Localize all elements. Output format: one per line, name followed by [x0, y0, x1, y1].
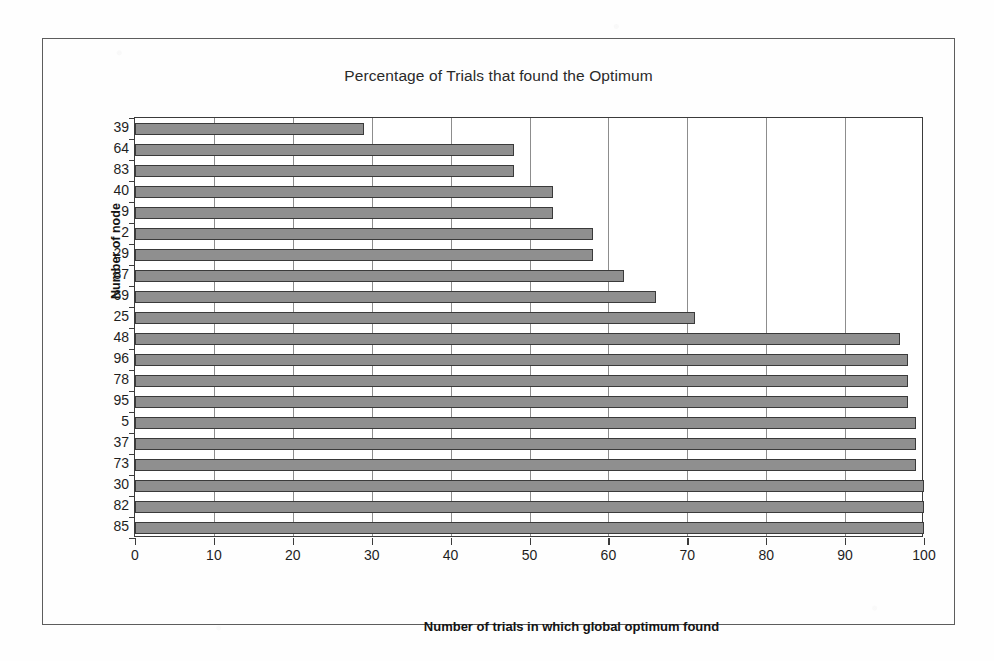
y-tick-label-2: 2	[89, 224, 129, 240]
y-tick-48	[129, 328, 135, 329]
y-tick-73	[129, 454, 135, 455]
x-axis-title: Number of trials in which global optimum…	[177, 619, 966, 634]
x-tick-label-10: 10	[206, 547, 222, 563]
y-tick-40	[129, 181, 135, 182]
y-tick-label-48: 48	[89, 329, 129, 345]
bar-node-48	[135, 333, 900, 345]
y-tick-label-40: 40	[89, 182, 129, 198]
y-tick-label-85: 85	[89, 518, 129, 534]
x-tick-10	[214, 538, 215, 545]
y-tick-29	[129, 244, 135, 245]
x-tick-label-60: 60	[601, 547, 617, 563]
x-tick-40	[451, 538, 452, 545]
x-tick-label-100: 100	[912, 547, 935, 563]
bar-node-95	[135, 396, 908, 408]
x-tick-label-0: 0	[131, 547, 139, 563]
x-axis-tick-labels: 0102030405060708090100	[135, 547, 924, 567]
x-tick-label-40: 40	[443, 547, 459, 563]
y-tick-25	[129, 307, 135, 308]
bar-node-40	[135, 186, 553, 198]
y-tick-label-39: 39	[89, 119, 129, 135]
y-tick-64	[129, 139, 135, 140]
y-tick-label-30: 30	[89, 476, 129, 492]
bar-node-69	[135, 291, 656, 303]
x-tick-100	[924, 538, 925, 545]
plot-area: 3964834092298769254896789553773308285 01…	[134, 117, 923, 537]
bar-series	[135, 118, 922, 536]
y-axis-tick-labels: 3964834092298769254896789553773308285	[89, 118, 129, 538]
y-tick-5	[129, 412, 135, 413]
bar-node-73	[135, 459, 916, 471]
bar-node-29	[135, 249, 593, 261]
chart-title: Percentage of Trials that found the Opti…	[43, 67, 954, 85]
bar-node-2	[135, 228, 593, 240]
y-tick-label-9: 9	[89, 203, 129, 219]
x-tick-70	[687, 538, 688, 545]
y-tick-label-37: 37	[89, 434, 129, 450]
bar-node-85	[135, 522, 924, 534]
y-tick-label-83: 83	[89, 161, 129, 177]
bar-node-78	[135, 375, 908, 387]
x-tick-label-80: 80	[758, 547, 774, 563]
y-tick-9	[129, 202, 135, 203]
bar-node-37	[135, 438, 916, 450]
y-tick-87	[129, 265, 135, 266]
y-tick-30	[129, 475, 135, 476]
y-tick-2	[129, 223, 135, 224]
y-tick-82	[129, 496, 135, 497]
y-tick-label-82: 82	[89, 497, 129, 513]
y-tick-label-5: 5	[89, 413, 129, 429]
x-tick-label-30: 30	[364, 547, 380, 563]
y-tick-83	[129, 160, 135, 161]
bar-node-5	[135, 417, 916, 429]
screenshot-page: Percentage of Trials that found the Opti…	[0, 0, 994, 661]
y-tick-label-87: 87	[89, 266, 129, 282]
y-tick-85	[129, 517, 135, 518]
x-tick-label-90: 90	[837, 547, 853, 563]
y-tick-label-95: 95	[89, 392, 129, 408]
y-tick-78	[129, 370, 135, 371]
bar-node-9	[135, 207, 553, 219]
y-axis-ticks	[129, 118, 135, 538]
y-tick-label-78: 78	[89, 371, 129, 387]
bar-node-83	[135, 165, 514, 177]
y-tick-37	[129, 433, 135, 434]
y-tick-96	[129, 349, 135, 350]
y-tick-label-73: 73	[89, 455, 129, 471]
y-tick-95	[129, 391, 135, 392]
y-tick-39	[129, 118, 135, 119]
bar-node-64	[135, 144, 514, 156]
x-tick-label-70: 70	[680, 547, 696, 563]
bar-node-82	[135, 501, 924, 513]
x-axis-ticks	[135, 538, 924, 545]
y-tick-label-29: 29	[89, 245, 129, 261]
x-tick-label-20: 20	[285, 547, 301, 563]
x-tick-0	[135, 538, 136, 545]
x-tick-90	[845, 538, 846, 545]
bar-node-96	[135, 354, 908, 366]
y-tick-69	[129, 286, 135, 287]
y-tick-label-64: 64	[89, 140, 129, 156]
bar-node-25	[135, 312, 695, 324]
x-tick-50	[530, 538, 531, 545]
bar-node-87	[135, 270, 624, 282]
x-tick-20	[293, 538, 294, 545]
x-tick-60	[608, 538, 609, 545]
x-tick-80	[766, 538, 767, 545]
y-tick-label-69: 69	[89, 287, 129, 303]
bar-node-39	[135, 123, 364, 135]
y-tick-label-25: 25	[89, 308, 129, 324]
x-tick-30	[372, 538, 373, 545]
x-tick-label-50: 50	[522, 547, 538, 563]
bar-node-30	[135, 480, 924, 492]
y-tick-label-96: 96	[89, 350, 129, 366]
